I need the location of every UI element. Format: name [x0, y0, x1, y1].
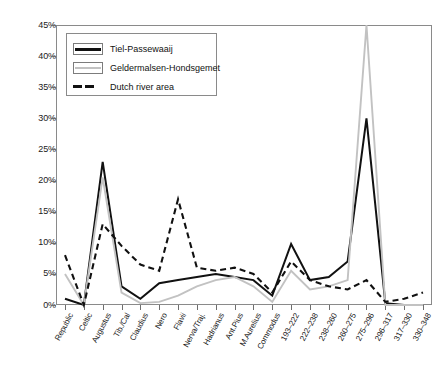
- legend-entry-geldermalsen-hondsgemet: Geldermalsen-Hondsgemet: [73, 58, 210, 77]
- solid-gray-line-swatch: [73, 62, 103, 74]
- series-line-dutch-river-area: [65, 199, 423, 305]
- dashed-black-line-swatch: [73, 81, 103, 93]
- chart-legend: Tiel-Passewaaij Geldermalsen-Hondsgemet …: [66, 33, 217, 96]
- legend-entry-dutch-river-area: Dutch river area: [73, 77, 210, 96]
- legend-label: Dutch river area: [110, 82, 174, 92]
- legend-label: Tiel-Passewaaij: [110, 44, 173, 54]
- legend-entry-tiel-passewaaij: Tiel-Passewaaij: [73, 39, 210, 58]
- legend-label: Geldermalsen-Hondsgemet: [110, 63, 220, 73]
- solid-black-line-swatch: [73, 43, 103, 55]
- chart-figure: 0%5%10%15%20%25%30%35%40%45% RepublicCel…: [0, 0, 442, 367]
